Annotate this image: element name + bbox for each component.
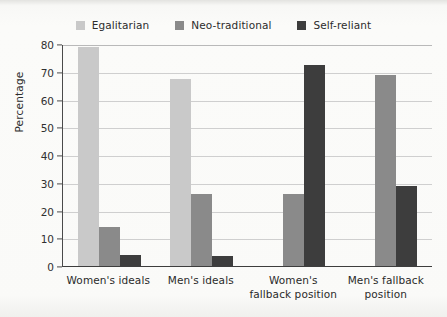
bar bbox=[99, 227, 120, 266]
bar bbox=[283, 194, 304, 266]
y-tick-label: 80 bbox=[41, 39, 54, 51]
bar-chart-figure: EgalitarianNeo-traditionalSelf-reliant P… bbox=[0, 0, 447, 317]
y-tick-label: 30 bbox=[41, 178, 54, 190]
bar bbox=[212, 256, 233, 266]
bar-group bbox=[248, 45, 340, 266]
x-axis-label-line: Men's fallback bbox=[340, 274, 433, 288]
y-tick-label: 50 bbox=[41, 122, 54, 134]
legend-label: Neo-traditional bbox=[191, 19, 271, 31]
bar bbox=[396, 186, 417, 266]
x-axis-label-line: Men's ideals bbox=[155, 274, 248, 288]
y-tick-label: 10 bbox=[41, 233, 54, 245]
bar bbox=[375, 75, 396, 266]
bar-group bbox=[155, 45, 247, 266]
bar bbox=[304, 65, 325, 266]
x-axis-label: Men's ideals bbox=[155, 274, 248, 301]
x-axis-label-line: fallback position bbox=[247, 288, 340, 302]
legend-item: Neo-traditional bbox=[175, 19, 271, 31]
x-axis-label-line: Women's bbox=[247, 274, 340, 288]
x-axis-label: Women'sfallback position bbox=[247, 274, 340, 301]
bar-group bbox=[340, 45, 432, 266]
legend-item: Self-reliant bbox=[297, 19, 371, 31]
legend-label: Self-reliant bbox=[313, 19, 371, 31]
x-axis-label-line: position bbox=[340, 288, 433, 302]
scan-edge-top bbox=[0, 0, 447, 5]
bar-group bbox=[63, 45, 155, 266]
legend-item: Egalitarian bbox=[76, 19, 150, 31]
y-tick-label: 0 bbox=[47, 261, 54, 273]
bar bbox=[191, 194, 212, 266]
y-axis-ticks: 01020304050607080 bbox=[0, 45, 62, 267]
y-tick-label: 20 bbox=[41, 206, 54, 218]
legend-swatch-icon bbox=[297, 21, 306, 30]
legend-swatch-icon bbox=[175, 21, 184, 30]
x-axis-label: Men's fallbackposition bbox=[340, 274, 433, 301]
y-tick-label: 40 bbox=[41, 150, 54, 162]
bars-layer bbox=[63, 45, 432, 266]
chart-legend: EgalitarianNeo-traditionalSelf-reliant bbox=[0, 19, 447, 31]
legend-swatch-icon bbox=[76, 21, 85, 30]
y-tick-label: 60 bbox=[41, 95, 54, 107]
bar bbox=[78, 47, 99, 266]
y-tick-label: 70 bbox=[41, 67, 54, 79]
plot-area bbox=[62, 45, 432, 267]
x-axis-labels: Women's idealsMen's idealsWomen'sfallbac… bbox=[62, 274, 432, 301]
bar bbox=[120, 255, 141, 266]
legend-label: Egalitarian bbox=[92, 19, 150, 31]
x-axis-label-line: Women's ideals bbox=[62, 274, 155, 288]
x-axis-label: Women's ideals bbox=[62, 274, 155, 301]
bar bbox=[170, 79, 191, 266]
